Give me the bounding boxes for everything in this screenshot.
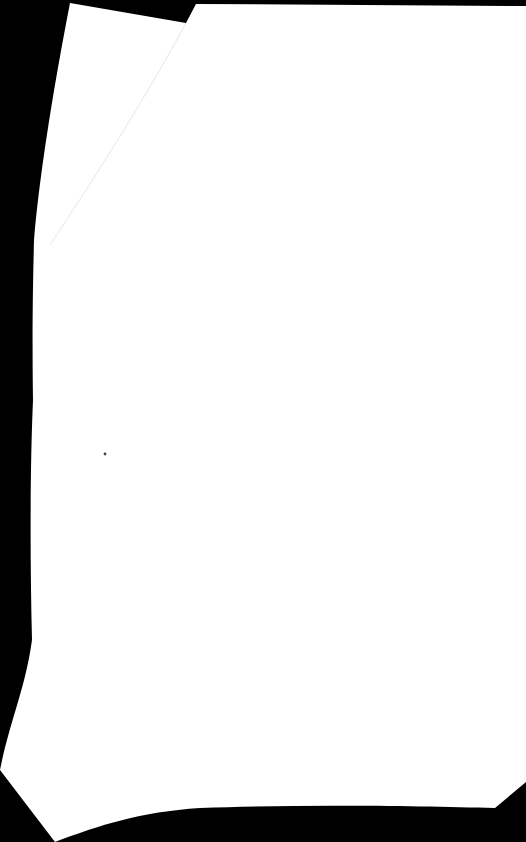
paper-sheet [0,3,526,842]
scanned-page [0,0,526,842]
speck [104,453,107,456]
